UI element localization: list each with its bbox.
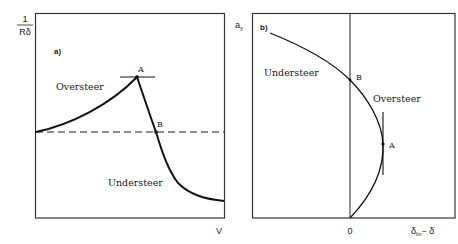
panel-b-frame (253, 14, 456, 219)
panel-b-curve (270, 33, 383, 218)
panel-b-y-label: ay (235, 20, 243, 31)
panel-b-oversteer-label: Oversteer (373, 93, 421, 104)
panel-a-point-b-label: B (157, 120, 163, 129)
panel-b-y-label-sub: y (240, 25, 243, 31)
panel-a-point-a-label: A (137, 65, 144, 74)
panel-a-point-a-marker (135, 75, 139, 79)
panel-a-x-label: V (216, 226, 222, 236)
steering-diagram: 1 Rδ a) A B Oversteer Understeer V ay b)… (0, 0, 458, 244)
panel-b-point-a-label: A (388, 141, 395, 150)
panel-a-understeer-label: Understeer (108, 177, 163, 188)
panel-a-point-b-marker (154, 130, 158, 134)
panel-b: ay b) B A Understeer Oversteer 0 δlin− δ (235, 14, 455, 238)
panel-b-x-label-rest: − δ (422, 226, 435, 236)
panel-a-oversteer-label: Oversteer (56, 81, 104, 92)
panel-b-x-label: δlin− δ (411, 226, 434, 237)
panel-b-label: b) (260, 23, 268, 32)
panel-a: 1 Rδ a) A B Oversteer Understeer V (17, 14, 225, 237)
panel-a-label: a) (54, 47, 61, 56)
panel-b-point-a-marker (381, 142, 384, 145)
panel-b-x-origin-label: 0 (347, 226, 352, 236)
panel-b-point-b-marker (349, 79, 352, 82)
panel-b-point-b-label: B (356, 73, 362, 82)
panel-b-understeer-label: Understeer (264, 67, 319, 78)
panel-a-y-label-numerator: 1 (22, 14, 27, 24)
panel-a-y-label-denominator: Rδ (19, 27, 31, 37)
